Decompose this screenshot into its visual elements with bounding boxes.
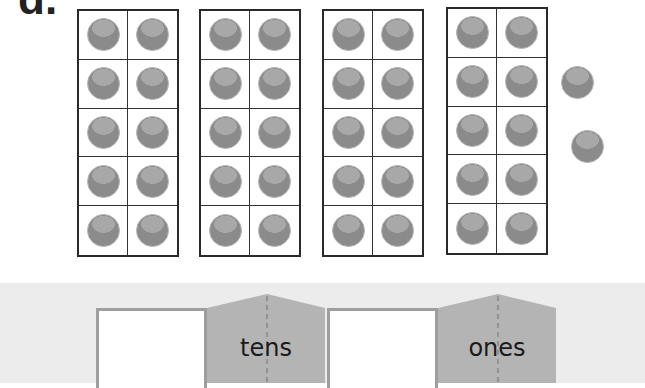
ten-frame-3 <box>322 9 424 257</box>
ones-label-tab: ones <box>438 294 556 383</box>
counter <box>456 16 489 49</box>
counter <box>456 65 489 98</box>
counter <box>136 18 169 51</box>
ten-frame-1 <box>77 9 179 257</box>
counter <box>258 165 291 198</box>
counter <box>505 212 538 245</box>
counter <box>381 116 414 149</box>
ones-label: ones <box>438 334 556 362</box>
tens-label: tens <box>207 334 325 362</box>
counter <box>209 67 242 100</box>
counter <box>332 116 365 149</box>
counter <box>136 165 169 198</box>
counter <box>87 116 120 149</box>
counter <box>209 18 242 51</box>
counter <box>381 18 414 51</box>
ten-frame-4 <box>446 7 548 255</box>
counter <box>332 67 365 100</box>
counter <box>456 163 489 196</box>
tens-label-tab: tens <box>207 294 325 383</box>
counter <box>258 18 291 51</box>
counter <box>87 18 120 51</box>
counter <box>505 65 538 98</box>
counter <box>505 163 538 196</box>
counter <box>258 116 291 149</box>
counter <box>332 18 365 51</box>
counter <box>505 16 538 49</box>
counter <box>209 165 242 198</box>
counter <box>381 165 414 198</box>
counter <box>456 114 489 147</box>
counter <box>456 212 489 245</box>
counter <box>381 214 414 247</box>
counter <box>87 165 120 198</box>
ones-answer-box[interactable] <box>327 308 438 388</box>
counter <box>136 116 169 149</box>
counter <box>209 214 242 247</box>
counter <box>332 214 365 247</box>
counter <box>87 67 120 100</box>
counter <box>209 116 242 149</box>
problem-label: d. <box>18 0 57 24</box>
counter <box>136 67 169 100</box>
counter <box>258 214 291 247</box>
counter <box>258 67 291 100</box>
loose-counter-1 <box>561 66 594 99</box>
counter <box>381 67 414 100</box>
counter <box>136 214 169 247</box>
counter <box>87 214 120 247</box>
counter <box>332 165 365 198</box>
ten-frame-2 <box>199 9 301 257</box>
loose-counter-2 <box>571 130 604 163</box>
tens-answer-box[interactable] <box>96 308 207 388</box>
counter <box>505 114 538 147</box>
